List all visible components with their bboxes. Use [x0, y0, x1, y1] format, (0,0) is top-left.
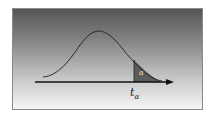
critical-value-label: tα	[130, 86, 139, 101]
axis-arrow-icon	[166, 79, 174, 85]
critical-value-subscript: α	[134, 93, 139, 101]
tail-alpha-label: α	[139, 69, 144, 77]
distribution-plot	[0, 0, 213, 115]
shaded-tail-region	[134, 60, 160, 82]
